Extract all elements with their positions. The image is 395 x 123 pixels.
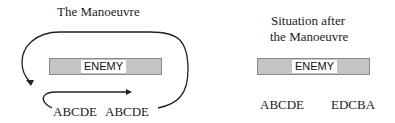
units-left-second: ABCDE (105, 104, 149, 119)
units-right-second: EDCBA (331, 97, 375, 112)
situation-title-line2: the Manoeuvre (270, 29, 348, 44)
units-right-first: ABCDE (260, 97, 304, 112)
inner-arrowhead-icon (126, 89, 132, 95)
outer-arrowhead-icon (26, 80, 34, 86)
enemy-label-right: ENEMY (292, 60, 337, 73)
situation-title-line1: Situation after (271, 13, 345, 28)
units-left-first: ABCDE (53, 104, 97, 119)
enemy-bar-right: ENEMY (257, 58, 370, 75)
outer-loop-arrow (22, 32, 188, 108)
